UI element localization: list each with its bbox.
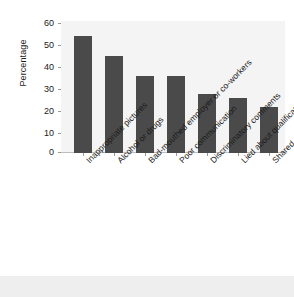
- y-tick-mark-30: [58, 89, 61, 90]
- y-tick-mark-60: [58, 23, 61, 24]
- bar-inappropriate-pictures: [74, 36, 92, 153]
- y-tick-label-20: 20: [34, 106, 54, 116]
- plot-area: [61, 21, 285, 153]
- y-tick-label-10: 10: [34, 128, 54, 138]
- bar-lied-about-qualifications: [229, 98, 247, 153]
- bar-alcohol-or-drugs: [105, 56, 123, 153]
- y-tick-label-60: 60: [34, 18, 54, 28]
- y-axis-title: Percentage: [18, 18, 28, 108]
- x-tick-mark-1: [83, 153, 84, 156]
- bar-discriminatory-comments: [198, 94, 216, 153]
- x-tick-mark-5: [207, 153, 208, 156]
- bar-bad-mouthed-employer: [136, 76, 154, 153]
- y-tick-label-0: 0: [34, 147, 54, 157]
- x-tick-mark-2: [114, 153, 115, 156]
- y-tick-mark-10: [58, 133, 61, 134]
- x-tick-mark-7: [269, 153, 270, 156]
- y-tick-label-50: 50: [34, 40, 54, 50]
- x-tick-mark-4: [176, 153, 177, 156]
- page-bottom-band: [0, 276, 294, 297]
- y-tick-mark-50: [58, 45, 61, 46]
- y-tick-mark-20: [58, 111, 61, 112]
- x-tick-mark-6: [238, 153, 239, 156]
- bar-shared-confidential-info: [260, 107, 278, 153]
- y-tick-label-40: 40: [34, 62, 54, 72]
- bar-poor-communication: [167, 76, 185, 153]
- y-tick-label-30: 30: [34, 84, 54, 94]
- y-tick-mark-40: [58, 67, 61, 68]
- bar-chart-figure: Percentage 60 50 40 30 20 10 0 Inappropr…: [0, 0, 294, 297]
- x-tick-mark-3: [145, 153, 146, 156]
